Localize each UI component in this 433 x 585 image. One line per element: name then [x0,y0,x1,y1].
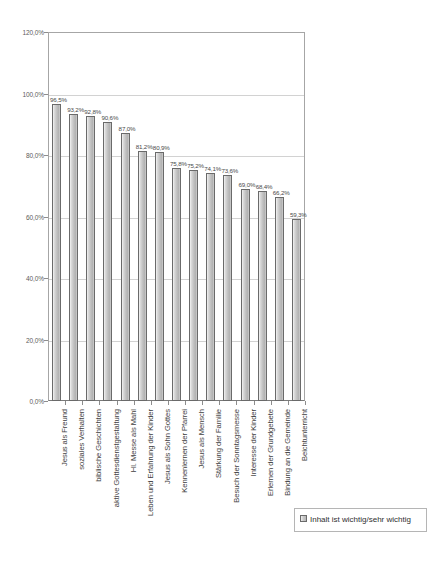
bar-value-label: 75,8% [170,160,187,167]
bar [52,104,61,401]
bar [275,197,284,401]
bar [172,168,181,401]
x-axis-tick-mark [99,401,100,405]
bar-value-label: 66,2% [273,189,290,196]
chart-title [0,0,433,2]
x-axis-category-label: soziales Verhalten [77,409,86,470]
x-axis-category-label: Besuch der Sonntagsmesse [232,409,241,503]
bar [155,152,164,401]
x-axis-tick-mark [254,401,255,405]
bar-value-label: 81,2% [136,143,153,150]
y-axis-tick-label: 100,0% [0,90,44,97]
legend-item: Inhalt ist wichtig/sehr wichtig [300,514,422,525]
x-axis-category-label: aktive Gottesdienstgestaltung [112,409,121,507]
bar [189,170,198,401]
y-axis-tick-label: 120,0% [0,29,44,36]
y-axis-tick-label: 40,0% [0,275,44,282]
bar-value-label: 93,2% [67,106,84,113]
y-axis-tick-label: 80,0% [0,152,44,159]
y-axis-tick-mark [44,94,48,95]
x-axis-tick-mark [134,401,135,405]
x-axis-category-label: Jesus als Mensch [197,409,206,469]
bar-value-label: 92,8% [84,108,101,115]
legend-swatch-icon [300,515,307,522]
x-axis-tick-mark [202,401,203,405]
x-axis-category-label: Hl. Messe als Mahl [129,409,138,472]
x-axis-category-label: Jesus als Freund [60,409,69,466]
x-axis-tick-mark [271,401,272,405]
bar [86,116,95,401]
x-axis-tick-mark [236,401,237,405]
bar-value-label: 69,0% [239,181,256,188]
bar-value-label: 75,2% [187,162,204,169]
bar [258,191,267,401]
legend-label: Inhalt ist wichtig/sehr wichtig [310,514,411,525]
bar [69,114,78,401]
y-axis-tick-label: 60,0% [0,213,44,220]
bar [138,151,147,401]
bar-value-label: 90,6% [101,114,118,121]
x-axis-category-label: Interesse der Kinder [249,409,258,476]
y-axis-tick-mark [44,401,48,402]
x-axis-category-label: Leben und Erfahrung der Kinder [146,409,155,516]
y-axis-tick-label: 0,0% [0,398,44,405]
legend: Inhalt ist wichtig/sehr wichtig [294,508,427,532]
x-axis-category-label: Stärkung der Familie [214,409,223,478]
x-axis-category-label: biblische Geschichten [94,409,103,482]
bar [241,189,250,401]
y-axis-tick-label: 20,0% [0,336,44,343]
x-axis-category-label: Kennenlernen der Pfarrei [180,409,189,493]
bar [103,122,112,401]
x-axis-tick-mark [82,401,83,405]
bar-value-label: 80,9% [153,144,170,151]
gridline [49,95,304,96]
x-axis-tick-mark [288,401,289,405]
x-axis-category-label: Erlernen der Grundgebete [266,409,275,496]
x-axis-tick-mark [168,401,169,405]
bar [292,219,301,401]
bar [121,133,130,401]
x-axis-category-label: Bindung an die Gemeinde [283,409,292,496]
bar-chart: 120,0%100,0%80,0%60,0%40,0%20,0%0,0% 96,… [0,0,433,585]
y-axis-tick-mark [44,278,48,279]
x-axis-tick-mark [305,401,306,405]
y-axis-tick-mark [44,217,48,218]
bar-value-label: 87,0% [119,125,136,132]
x-axis-category-label: Beichtunterricht [300,409,309,461]
bar-value-label: 74,1% [204,165,221,172]
bar-value-label: 73,6% [221,167,238,174]
y-axis-tick-mark [44,340,48,341]
y-axis-tick-mark [44,155,48,156]
bar-value-label: 68,4% [256,183,273,190]
x-axis-category-label: Jesus als Sohn Gottes [163,409,172,484]
x-axis-tick-mark [151,401,152,405]
bar [206,173,215,401]
bar-value-label: 96,5% [50,96,67,103]
bar-value-label: 59,3% [290,211,307,218]
x-axis-tick-mark [65,401,66,405]
y-axis-tick-mark [44,32,48,33]
x-axis-tick-mark [185,401,186,405]
bar [223,175,232,401]
x-axis-tick-mark [219,401,220,405]
x-axis-tick-mark [117,401,118,405]
